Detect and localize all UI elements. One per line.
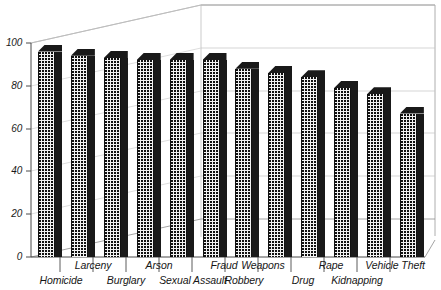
bar-front-face — [137, 60, 154, 257]
bar-side-face — [88, 56, 95, 257]
bar-top-face — [137, 53, 161, 60]
bar-side-face — [351, 88, 358, 257]
bar-front-face — [235, 69, 252, 257]
x-label-robbery: Robbery — [209, 274, 279, 286]
bar-top-face — [301, 70, 325, 77]
bar-front-face — [71, 56, 88, 257]
bar-front-face — [170, 60, 187, 257]
bar-front-face — [104, 58, 121, 257]
chart-canvas: 100 80 60 40 20 0 Homicide Larceny Burgl… — [0, 0, 441, 290]
bar-front-face — [301, 77, 318, 257]
x-label-homicide: Homicide — [31, 274, 91, 286]
bar-weapons — [268, 66, 292, 257]
x-label-arson: Arson — [129, 259, 189, 271]
bar-side-face — [220, 60, 227, 257]
bar-fraud — [203, 53, 227, 257]
bar-top-face — [170, 53, 194, 60]
bar-side-face — [384, 94, 391, 257]
bar-larceny — [71, 49, 95, 257]
bar-top-face — [334, 81, 358, 88]
bar-vehicle-theft — [400, 107, 424, 257]
bar-top-face — [400, 107, 424, 114]
bar-top-face — [104, 51, 128, 58]
bar-series — [0, 0, 441, 290]
bar-side-face — [121, 58, 128, 257]
x-label-weapons: Weapons — [226, 259, 300, 271]
bar-robbery — [235, 62, 259, 257]
x-label-larceny: Larceny — [62, 259, 124, 271]
bar-top-face — [268, 66, 292, 73]
bar-drug — [301, 70, 325, 257]
x-label-vehicle-theft: Vehicle Theft — [349, 259, 441, 271]
bar-arson — [137, 53, 161, 257]
bar-front-face — [203, 60, 220, 257]
bar-sexual-assault — [170, 53, 194, 257]
bar-front-face — [367, 94, 384, 257]
bar-kidnapping — [367, 87, 391, 257]
bar-side-face — [285, 73, 292, 257]
bar-top-face — [38, 45, 62, 52]
bar-front-face — [38, 52, 55, 257]
bar-front-face — [268, 73, 285, 257]
bar-side-face — [417, 114, 424, 257]
bar-side-face — [55, 52, 62, 257]
bar-front-face — [400, 114, 417, 257]
bar-side-face — [154, 60, 161, 257]
bar-top-face — [203, 53, 227, 60]
bar-top-face — [71, 49, 95, 56]
bar-front-face — [334, 88, 351, 257]
bar-side-face — [187, 60, 194, 257]
bar-top-face — [367, 87, 391, 94]
bar-side-face — [252, 69, 259, 257]
bar-top-face — [235, 62, 259, 69]
bar-rape — [334, 81, 358, 257]
x-label-kidnapping: Kidnapping — [313, 274, 401, 286]
bar-burglary — [104, 51, 128, 257]
bar-homicide — [38, 45, 62, 257]
bar-side-face — [318, 77, 325, 257]
